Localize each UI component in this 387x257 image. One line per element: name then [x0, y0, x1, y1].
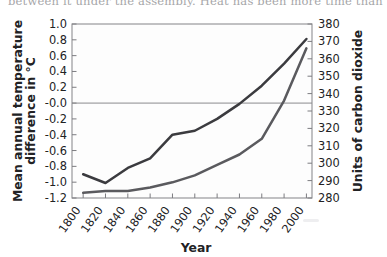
x-axis-tick-label: 1940 — [212, 204, 240, 236]
y2-axis-title: Units of carbon dioxide — [350, 30, 365, 192]
y2-axis-tick-label: 320 — [318, 121, 340, 135]
plot-frame — [72, 24, 312, 198]
y-axis-tick-label: 0.6 — [49, 49, 67, 63]
y2-axis-tick-label: 340 — [318, 87, 340, 101]
y-axis-title: difference in °C — [23, 57, 38, 165]
y2-axis-tick-label: 280 — [318, 191, 340, 205]
y-axis-tick-label: -0.0 — [45, 96, 67, 110]
y2-axis-tick-label: 360 — [318, 52, 340, 66]
x-axis-tick-label: 1980 — [256, 204, 284, 236]
x-axis-tick-label: 1920 — [189, 204, 217, 236]
y-axis-tick-label: -0.2 — [45, 112, 67, 126]
y2-axis-tick-label: 370 — [318, 34, 340, 48]
x-axis-tick-label: 1960 — [234, 204, 262, 236]
figure-container: between it under the assembly. Heat has … — [0, 0, 387, 257]
x-axis-tick-label: 2000 — [279, 204, 307, 236]
y-axis-tick-label: -1.0 — [45, 175, 67, 189]
y2-axis-tick-label: 350 — [318, 69, 340, 83]
x-axis-tick-label: 1900 — [167, 204, 195, 236]
x-axis-tick-label: 1840 — [100, 204, 128, 236]
x-axis-title: Year — [180, 240, 213, 255]
climate-line-chart: 1.00.80.60.40.2-0.0-0.2-0.4-0.6-0.8-1.0-… — [0, 0, 387, 257]
y-axis-tick-label: 0.8 — [49, 33, 67, 47]
x-axis-tick-label: 1820 — [78, 204, 106, 236]
x-axis-tick-label: 1860 — [122, 204, 150, 236]
y2-axis-tick-label: 380 — [318, 17, 340, 31]
y-axis-tick-label: -0.6 — [45, 144, 67, 158]
y-axis-tick-label: 1.0 — [49, 17, 67, 31]
y-axis-tick-label: 0.4 — [49, 64, 67, 78]
y-axis-tick-label: -0.4 — [45, 128, 67, 142]
y-axis-tick-label: -0.8 — [45, 159, 67, 173]
y-axis-tick-label: 0.2 — [49, 80, 67, 94]
x-axis-tick-label: 1800 — [56, 204, 84, 236]
y-axis-tick-label: -1.2 — [45, 191, 67, 205]
y2-axis-tick-label: 300 — [318, 156, 340, 170]
y2-axis-tick-label: 290 — [318, 174, 340, 188]
y2-axis-tick-label: 310 — [318, 139, 340, 153]
y2-axis-tick-label: 330 — [318, 104, 340, 118]
x-axis-tick-label: 1880 — [145, 204, 173, 236]
